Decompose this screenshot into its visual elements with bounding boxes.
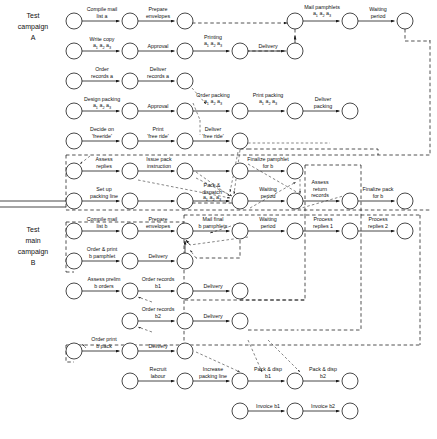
event-node[interactable] bbox=[287, 43, 303, 59]
activity-label: Set up bbox=[96, 186, 111, 192]
activity-label: Deliver bbox=[150, 66, 167, 72]
event-node[interactable] bbox=[66, 43, 82, 59]
event-node[interactable] bbox=[122, 283, 138, 299]
event-node[interactable] bbox=[287, 373, 303, 389]
activity-label: return bbox=[313, 186, 327, 192]
activity-label: Waiting bbox=[259, 186, 277, 192]
activity-label: Delivery bbox=[148, 253, 167, 259]
activity-label: records bbox=[311, 192, 329, 198]
event-node[interactable] bbox=[66, 343, 82, 359]
event-node[interactable] bbox=[177, 223, 193, 239]
event-node[interactable] bbox=[177, 43, 193, 59]
event-node[interactable] bbox=[232, 373, 248, 389]
activity-label: b1 bbox=[155, 283, 161, 289]
event-node[interactable] bbox=[287, 403, 303, 419]
event-node[interactable] bbox=[342, 403, 358, 419]
event-node[interactable] bbox=[232, 43, 248, 59]
event-node[interactable] bbox=[177, 193, 193, 209]
event-node[interactable] bbox=[342, 373, 358, 389]
event-node[interactable] bbox=[122, 73, 138, 89]
activity-label: Printing bbox=[204, 34, 222, 40]
activity-label: 'free ride' bbox=[147, 133, 168, 139]
event-node[interactable] bbox=[66, 103, 82, 119]
event-node[interactable] bbox=[122, 223, 138, 239]
event-node[interactable] bbox=[177, 313, 193, 329]
activity-label: replies 2 bbox=[368, 223, 388, 229]
diagram-row-row-1: Compile maillist aPrepareenvelopesMail p… bbox=[66, 4, 413, 29]
activity-network-diagram: Compile maillist aPrepareenvelopesMail p… bbox=[0, 0, 437, 439]
activity-label: instruction bbox=[147, 163, 171, 169]
event-node[interactable] bbox=[232, 313, 248, 329]
event-node[interactable] bbox=[287, 13, 303, 29]
event-node[interactable] bbox=[177, 13, 193, 29]
event-node[interactable] bbox=[397, 193, 413, 209]
event-node[interactable] bbox=[232, 403, 248, 419]
event-node[interactable] bbox=[66, 163, 82, 179]
event-node[interactable] bbox=[232, 193, 248, 209]
event-node[interactable] bbox=[122, 193, 138, 209]
event-node[interactable] bbox=[122, 313, 138, 329]
event-node[interactable] bbox=[342, 13, 358, 29]
event-node[interactable] bbox=[177, 283, 193, 299]
event-node[interactable] bbox=[177, 343, 193, 359]
activity-label: Delivery bbox=[203, 313, 222, 319]
activity-label: Waiting bbox=[259, 216, 277, 222]
event-node[interactable] bbox=[177, 253, 193, 269]
event-node[interactable] bbox=[122, 43, 138, 59]
activity-label: envelopes bbox=[146, 223, 171, 229]
activity-label: b pamphlets bbox=[199, 223, 228, 229]
event-node[interactable] bbox=[342, 103, 358, 119]
activity-label: list a bbox=[97, 13, 108, 19]
event-node[interactable] bbox=[122, 133, 138, 149]
activity-label: Process bbox=[368, 216, 387, 222]
activity-label: Delivery bbox=[258, 43, 277, 49]
event-node[interactable] bbox=[287, 223, 303, 239]
event-node[interactable] bbox=[177, 373, 193, 389]
campaign-label: main bbox=[25, 237, 40, 244]
event-node[interactable] bbox=[122, 163, 138, 179]
event-node[interactable] bbox=[66, 283, 82, 299]
activity-label: for b bbox=[373, 193, 384, 199]
event-node[interactable] bbox=[66, 193, 82, 209]
event-node[interactable] bbox=[397, 223, 413, 239]
activity-label: Compile mail bbox=[87, 6, 118, 12]
event-node[interactable] bbox=[177, 163, 193, 179]
activity-label: Prepare bbox=[149, 6, 168, 12]
event-node[interactable] bbox=[397, 13, 413, 29]
event-node[interactable] bbox=[232, 133, 248, 149]
event-node[interactable] bbox=[177, 73, 193, 89]
event-node[interactable] bbox=[232, 163, 248, 179]
event-node[interactable] bbox=[66, 223, 82, 239]
activity-label: Assess prelim bbox=[88, 276, 122, 282]
event-node[interactable] bbox=[122, 253, 138, 269]
event-node[interactable] bbox=[287, 193, 303, 209]
network-diagram-canvas: Compile maillist aPrepareenvelopesMail p… bbox=[0, 0, 437, 439]
activity-label: packing line bbox=[90, 193, 118, 199]
event-node[interactable] bbox=[342, 193, 358, 209]
event-node[interactable] bbox=[122, 343, 138, 359]
event-node[interactable] bbox=[342, 223, 358, 239]
event-node[interactable] bbox=[287, 163, 303, 179]
activity-label: Delivery bbox=[148, 343, 167, 349]
activity-label: b pack bbox=[96, 343, 112, 349]
diagram-rows: Compile maillist aPrepareenvelopesMail p… bbox=[66, 4, 413, 419]
event-node[interactable] bbox=[232, 103, 248, 119]
event-node[interactable] bbox=[66, 253, 82, 269]
event-node[interactable] bbox=[177, 103, 193, 119]
event-node[interactable] bbox=[122, 13, 138, 29]
event-node[interactable] bbox=[66, 133, 82, 149]
activity-label: Order bbox=[95, 66, 109, 72]
activity-label: Assess bbox=[311, 179, 328, 185]
event-node[interactable] bbox=[232, 283, 248, 299]
activity-label: Write copy bbox=[90, 36, 115, 42]
event-node[interactable] bbox=[287, 103, 303, 119]
event-node[interactable] bbox=[177, 133, 193, 149]
activity-label: records a bbox=[147, 73, 169, 79]
activity-label: packing line bbox=[199, 373, 227, 379]
event-node[interactable] bbox=[66, 73, 82, 89]
activity-label: Compile mail bbox=[87, 216, 118, 222]
event-node[interactable] bbox=[232, 223, 248, 239]
event-node[interactable] bbox=[66, 13, 82, 29]
event-node[interactable] bbox=[122, 373, 138, 389]
event-node[interactable] bbox=[122, 103, 138, 119]
